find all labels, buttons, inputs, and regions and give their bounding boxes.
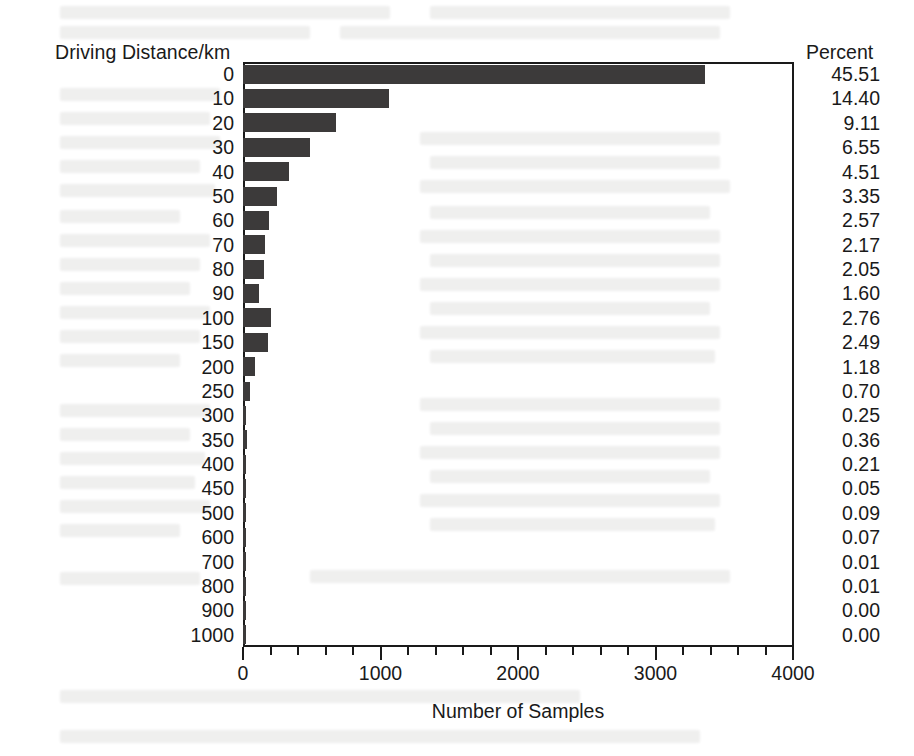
bar-percent-value: 14.40 <box>806 86 880 110</box>
bar-category-label: 350 <box>201 428 234 452</box>
bar <box>243 260 264 279</box>
x-axis-minor-tick <box>490 647 492 655</box>
bar <box>243 479 246 498</box>
bar-category-label: 700 <box>201 550 234 574</box>
bar <box>243 382 250 401</box>
bar <box>243 308 271 327</box>
x-axis-major-tick <box>380 647 382 660</box>
x-axis-minor-tick <box>545 647 547 655</box>
axis-frame <box>243 62 793 647</box>
bar-percent-value: 0.07 <box>806 525 880 549</box>
axis-top-spine <box>243 62 794 64</box>
bar-percent-value: 0.21 <box>806 452 880 476</box>
bar <box>243 552 246 571</box>
bar-percent-value: 0.01 <box>806 574 880 598</box>
bar-category-label: 60 <box>212 208 234 232</box>
x-axis-minor-tick <box>627 647 629 655</box>
bar <box>243 138 310 157</box>
bar <box>243 503 246 522</box>
bar <box>243 577 246 596</box>
bar-percent-value: 0.05 <box>806 476 880 500</box>
bar-percent-value: 2.76 <box>806 306 880 330</box>
bar <box>243 333 268 352</box>
bar-category-label: 150 <box>201 330 234 354</box>
bar-percent-value: 6.55 <box>806 135 880 159</box>
x-axis-minor-tick <box>737 647 739 655</box>
bar-percent-value: 45.51 <box>806 62 880 86</box>
x-axis-minor-tick <box>682 647 684 655</box>
bar-percent-value: 0.36 <box>806 428 880 452</box>
bar <box>243 284 259 303</box>
bar-category-label: 450 <box>201 476 234 500</box>
bar-percent-value: 1.18 <box>806 355 880 379</box>
plot-area: 045.511014.40209.11306.55404.51503.35602… <box>243 62 793 647</box>
bar-percent-value: 3.35 <box>806 184 880 208</box>
bar-category-label: 40 <box>212 160 234 184</box>
bar-percent-value: 0.01 <box>806 550 880 574</box>
bar-category-label: 90 <box>212 281 234 305</box>
bar-percent-value: 0.70 <box>806 379 880 403</box>
bar <box>243 430 247 449</box>
bar <box>243 162 289 181</box>
bar-percent-value: 2.17 <box>806 233 880 257</box>
bar <box>243 625 246 644</box>
x-axis-major-tick <box>517 647 519 660</box>
y-axis-title: Driving Distance/km <box>55 41 230 64</box>
bar <box>243 113 336 132</box>
x-axis-minor-tick <box>435 647 437 655</box>
bar-category-label: 600 <box>201 525 234 549</box>
bar-percent-value: 2.49 <box>806 330 880 354</box>
x-axis-minor-tick <box>600 647 602 655</box>
bar-percent-value: 0.00 <box>806 598 880 622</box>
x-axis-minor-tick <box>297 647 299 655</box>
bar-category-label: 0 <box>223 62 234 86</box>
axis-right-spine <box>792 62 794 647</box>
bar-percent-value: 2.57 <box>806 208 880 232</box>
bar-category-label: 900 <box>201 598 234 622</box>
bar <box>243 357 255 376</box>
bar <box>243 528 246 547</box>
bar-category-label: 250 <box>201 379 234 403</box>
x-axis-minor-tick <box>270 647 272 655</box>
x-axis-minor-tick <box>352 647 354 655</box>
bar-chart-figure: Driving Distance/km Percent 045.511014.4… <box>0 0 914 756</box>
bar-category-label: 10 <box>212 86 234 110</box>
x-axis-major-tick <box>655 647 657 660</box>
bar <box>243 601 246 620</box>
bar <box>243 187 277 206</box>
bar <box>243 65 705 84</box>
bar-percent-value: 0.25 <box>806 403 880 427</box>
bar <box>243 455 246 474</box>
x-axis-tick-label: 2000 <box>496 662 539 685</box>
bar-percent-value: 9.11 <box>806 111 880 135</box>
percent-column-header: Percent <box>806 41 873 64</box>
bar-category-label: 70 <box>212 233 234 257</box>
x-axis-tick-label: 0 <box>238 662 249 685</box>
bar-percent-value: 4.51 <box>806 160 880 184</box>
x-axis-major-tick <box>792 647 794 660</box>
bar-category-label: 200 <box>201 355 234 379</box>
bar-percent-value: 0.00 <box>806 623 880 647</box>
bar-category-label: 100 <box>201 306 234 330</box>
x-axis-minor-tick <box>765 647 767 655</box>
x-axis-minor-tick <box>462 647 464 655</box>
bar <box>243 211 269 230</box>
x-axis-tick-label: 1000 <box>359 662 402 685</box>
x-axis-minor-tick <box>710 647 712 655</box>
bar-category-label: 300 <box>201 403 234 427</box>
bar-percent-value: 2.05 <box>806 257 880 281</box>
bar <box>243 89 389 108</box>
bar-category-label: 50 <box>212 184 234 208</box>
bar-category-label: 500 <box>201 501 234 525</box>
x-axis-minor-tick <box>572 647 574 655</box>
bar-category-label: 800 <box>201 574 234 598</box>
bar-category-label: 30 <box>212 135 234 159</box>
bar <box>243 406 246 425</box>
bar <box>243 235 265 254</box>
bar-percent-value: 1.60 <box>806 281 880 305</box>
x-axis-major-tick <box>242 647 244 660</box>
x-axis-tick-label: 3000 <box>634 662 677 685</box>
x-axis-tick-label: 4000 <box>771 662 814 685</box>
x-axis-minor-tick <box>407 647 409 655</box>
bar-category-label: 20 <box>212 111 234 135</box>
